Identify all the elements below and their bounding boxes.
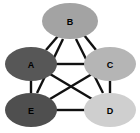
node-label-e: E bbox=[28, 106, 34, 116]
graph-edge-a-b bbox=[46, 36, 58, 50]
node-label-d: D bbox=[107, 106, 114, 116]
graph-canvas: ABCDE bbox=[0, 0, 140, 133]
graph-node-b[interactable]: B bbox=[42, 3, 98, 39]
graph-node-c[interactable]: C bbox=[84, 47, 136, 81]
graph-edge-b-c bbox=[84, 35, 96, 50]
graph-node-e[interactable]: E bbox=[5, 93, 57, 127]
node-label-b: B bbox=[67, 17, 74, 27]
node-label-c: C bbox=[107, 60, 114, 70]
graph-node-a[interactable]: A bbox=[5, 47, 57, 81]
node-label-a: A bbox=[28, 60, 35, 70]
graph-svg: ABCDE bbox=[0, 0, 140, 133]
graph-node-d[interactable]: D bbox=[84, 93, 136, 127]
